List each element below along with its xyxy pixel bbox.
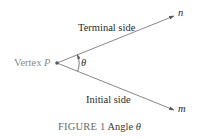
initial-point-label: m [178,104,186,115]
caption-number: FIGURE 1 [58,121,105,132]
caption-symbol: θ [136,121,141,132]
vertex-label: Vertex P [14,58,50,69]
caption-text: Angle [105,121,135,132]
vertex-label-text: Vertex [14,57,44,68]
angle-diagram [0,0,199,137]
angle-theta-label: θ [81,58,86,69]
figure-caption: FIGURE 1 Angle θ [0,121,199,132]
vertex-symbol: P [44,57,50,68]
terminal-side-label: Terminal side [78,23,135,34]
angle-arc [77,55,79,72]
vertex-point-icon [55,61,59,65]
angle-figure: Vertex P θ Terminal side Initial side n … [0,0,199,137]
terminal-point-label: n [178,8,183,19]
initial-side-label: Initial side [86,95,131,106]
